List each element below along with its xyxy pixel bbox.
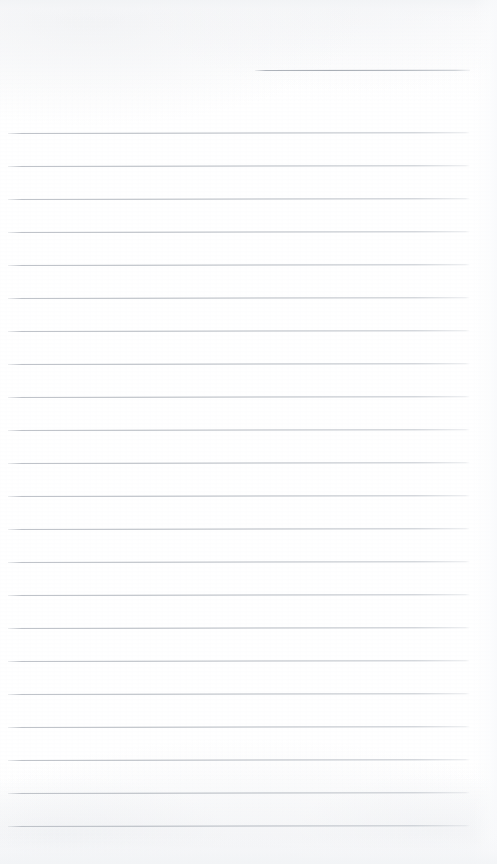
ruled-lines-layer xyxy=(0,0,497,864)
line-write-zone[interactable] xyxy=(8,201,470,232)
line-write-zone[interactable] xyxy=(8,663,470,694)
line-write-zone[interactable] xyxy=(8,234,470,265)
line-write-zone[interactable] xyxy=(8,465,470,496)
line-write-zone[interactable] xyxy=(8,498,470,529)
line-write-zone[interactable] xyxy=(8,795,470,826)
line-write-zone[interactable] xyxy=(8,333,470,364)
line-write-zone[interactable] xyxy=(8,729,470,760)
line-write-zone[interactable] xyxy=(8,135,470,166)
line-write-zone[interactable] xyxy=(8,168,470,199)
line-write-zone[interactable] xyxy=(8,300,470,331)
line-write-zone[interactable] xyxy=(8,267,470,298)
line-write-zone[interactable] xyxy=(8,630,470,661)
line-write-zone[interactable] xyxy=(8,399,470,430)
header-write-zone[interactable] xyxy=(255,50,470,70)
notepaper-page xyxy=(0,0,497,864)
line-write-zone[interactable] xyxy=(8,696,470,727)
line-write-zone[interactable] xyxy=(8,564,470,595)
line-write-zone[interactable] xyxy=(8,531,470,562)
line-write-zone[interactable] xyxy=(8,762,470,793)
line-write-zone[interactable] xyxy=(8,366,470,397)
line-write-zone[interactable] xyxy=(8,597,470,628)
line-write-zone[interactable] xyxy=(8,102,470,133)
line-write-zone[interactable] xyxy=(8,432,470,463)
